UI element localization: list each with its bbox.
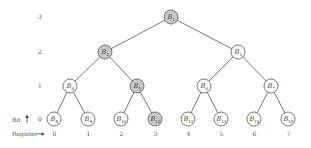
tree-node-b15: B15 (281, 112, 295, 126)
register-index-label: 0 (52, 130, 56, 137)
binary-tree-diagram: B1B2B3B4B5B6B7B8B9B10B11B12B13B14B15 321… (0, 0, 311, 148)
tree-edge (171, 17, 238, 52)
register-index-label: 1 (86, 130, 90, 137)
right-arrow-icon (37, 132, 45, 135)
tree-node-b3: B3 (231, 45, 245, 59)
tree-node-b10: B10 (114, 112, 128, 126)
tree-node-b6: B6 (197, 79, 211, 93)
register-labels: 01234567 (52, 130, 290, 137)
tree-node-b9: B9 (81, 112, 95, 126)
svg-text:Register: Register (12, 130, 38, 138)
svg-text:Bit: Bit (12, 116, 21, 123)
tree-nodes: B1B2B3B4B5B6B7B8B9B10B11B12B13B14B15 (47, 10, 295, 126)
tree-node-b4: B4 (63, 79, 77, 93)
register-index-label: 6 (252, 130, 256, 137)
tree-node-b5: B5 (130, 79, 144, 93)
register-index-label: 7 (286, 130, 290, 137)
register-index-label: 4 (186, 130, 190, 137)
bit-level-label: 0 (38, 115, 42, 122)
register-index-label: 3 (153, 130, 157, 137)
tree-edge (105, 17, 171, 52)
tree-node-b7: B7 (264, 79, 278, 93)
register-index-label: 5 (219, 130, 223, 137)
tree-node-b2: B2 (98, 45, 112, 59)
tree-node-b11: B11 (148, 112, 162, 126)
tree-node-b13: B13 (214, 112, 228, 126)
tree-edges (54, 17, 288, 119)
tree-node-b14: B14 (247, 112, 261, 126)
bit-level-label: 1 (38, 82, 42, 89)
up-arrow-icon (25, 115, 29, 124)
bit-level-label: 3 (38, 13, 42, 20)
tree-node-b12: B12 (181, 112, 195, 126)
tree-node-b8: B8 (47, 112, 61, 126)
register-axis-label: Register (12, 130, 45, 138)
bit-level-labels: 3210 (38, 13, 42, 122)
bit-level-label: 2 (38, 48, 42, 55)
tree-node-b1: B1 (164, 10, 178, 24)
register-index-label: 2 (119, 130, 123, 137)
bit-axis-label: Bit (12, 115, 29, 124)
